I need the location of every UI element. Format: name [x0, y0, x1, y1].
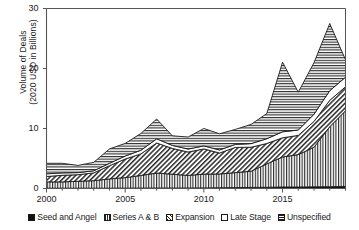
- legend-swatch-unspecified: [278, 214, 285, 221]
- legend-label: Series A & B: [113, 212, 160, 222]
- chart-legend: Seed and Angel Series A & B Expansion La…: [0, 212, 359, 222]
- legend-swatch-series-a-and-b: [104, 214, 111, 221]
- legend-item: Late Stage: [221, 212, 271, 222]
- plot-area: [0, 0, 359, 230]
- legend-label: Unspecified: [287, 212, 331, 222]
- legend-label: Seed and Angel: [37, 212, 96, 222]
- legend-swatch-late-stage: [221, 214, 228, 221]
- legend-item: Expansion: [166, 212, 214, 222]
- legend-label: Late Stage: [230, 212, 271, 222]
- legend-label: Expansion: [175, 212, 214, 222]
- chart-figure: Volume of Deals(2020 USD in Billions) 01…: [0, 0, 359, 230]
- legend-item: Seed and Angel: [28, 212, 96, 222]
- legend-swatch-seed-and-angel: [28, 214, 35, 221]
- legend-item: Unspecified: [278, 212, 331, 222]
- legend-swatch-expansion: [166, 214, 173, 221]
- legend-item: Series A & B: [104, 212, 160, 222]
- stacked-areas: [47, 24, 346, 189]
